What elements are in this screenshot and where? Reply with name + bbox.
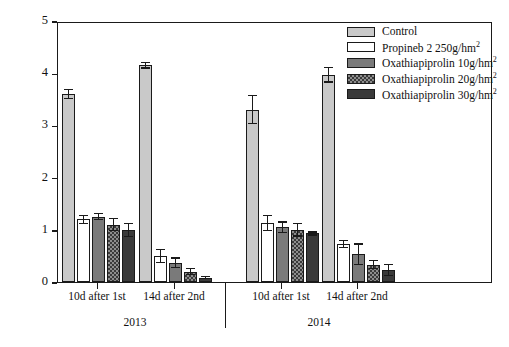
error-bar-cap	[94, 219, 103, 220]
bar-rect	[306, 233, 319, 282]
error-bar-cap	[324, 67, 333, 68]
error-bar-cap	[293, 223, 302, 224]
x-tick-mark	[97, 283, 98, 289]
error-bar-cap	[64, 89, 73, 90]
year-label: 2013	[95, 316, 175, 328]
y-tick-label: 3	[42, 117, 48, 132]
x-axis-label: 14d after 2nd	[307, 290, 407, 302]
error-bar-cap	[94, 213, 103, 214]
bar-group	[246, 23, 319, 282]
x-tick-mark	[357, 283, 358, 289]
error-bar-cap	[171, 257, 180, 258]
error-bar-cap	[64, 98, 73, 99]
error-bar-cap	[263, 230, 272, 231]
error-bar-cap	[384, 275, 393, 276]
legend-swatch	[347, 89, 375, 99]
y-tick-label: 4	[42, 65, 48, 80]
legend-label: Propineb 2 250g/hm2	[382, 41, 480, 54]
bar	[107, 225, 120, 282]
error-bar-cap	[293, 235, 302, 236]
bar-rect	[107, 225, 120, 282]
year-label: 2014	[279, 316, 359, 328]
bar-rect	[246, 110, 259, 282]
bar-rect	[77, 219, 90, 282]
bar	[154, 256, 167, 282]
legend-label: Control	[382, 26, 417, 38]
legend-swatch	[347, 27, 375, 37]
error-bar-cap	[324, 81, 333, 82]
legend-label: Oxathiapiprolin 20g/hm2	[382, 72, 497, 85]
bar	[169, 263, 182, 282]
bar-rect	[337, 244, 350, 282]
error-bar-cap	[109, 218, 118, 219]
error-bar-cap	[354, 264, 363, 265]
bar	[261, 223, 274, 282]
bar	[199, 278, 212, 282]
bar	[92, 217, 105, 282]
bar	[62, 94, 75, 282]
legend-label: Oxathiapiprolin 10g/hm2	[382, 56, 497, 69]
error-bar-cap	[141, 67, 150, 68]
error-bar-stem	[128, 223, 129, 238]
error-bar-cap	[156, 249, 165, 250]
bar-rect	[276, 227, 289, 282]
legend-label-text: Propineb 2 250g/hm	[382, 42, 476, 54]
error-bar-stem	[328, 67, 329, 83]
legend-label-text: Oxathiapiprolin 20g/hm	[382, 73, 493, 85]
legend-item: Control	[347, 24, 497, 40]
bar-rect	[62, 94, 75, 282]
error-bar-stem	[267, 215, 268, 231]
legend: ControlPropineb 2 250g/hm2Oxathiapiproli…	[347, 24, 497, 102]
bar	[352, 254, 365, 282]
legend-swatch	[347, 58, 375, 68]
error-bar-cap	[369, 268, 378, 269]
legend-item: Propineb 2 250g/hm2	[347, 40, 497, 56]
x-axis-label: 14d after 2nd	[124, 290, 224, 302]
error-bar-cap	[201, 278, 210, 279]
bar	[291, 230, 304, 282]
error-bar-cap	[278, 221, 287, 222]
legend-swatch	[347, 42, 375, 52]
y-tick-label: 5	[42, 13, 48, 28]
y-tick-label: 1	[42, 222, 48, 237]
bar	[246, 110, 259, 282]
bar	[322, 75, 335, 282]
error-bar-cap	[109, 230, 118, 231]
error-bar-cap	[186, 268, 195, 269]
bar-rect	[122, 230, 135, 282]
bar	[276, 227, 289, 282]
bar	[382, 270, 395, 282]
y-tick-label: 0	[42, 274, 48, 289]
bar	[139, 65, 152, 282]
error-bar-cap	[248, 123, 257, 124]
error-bar-cap	[171, 267, 180, 268]
disease-severity-bar-chart: Disease severity 012345 10d after 1st14d…	[0, 0, 509, 347]
bar-rect	[139, 65, 152, 282]
error-bar-cap	[141, 62, 150, 63]
bar-group	[62, 23, 135, 282]
legend-label-superscript: 2	[493, 87, 497, 96]
legend-label-text: Oxathiapiprolin 30g/hm	[382, 88, 493, 100]
legend-item: Oxathiapiprolin 20g/hm2	[347, 71, 497, 87]
legend-label-superscript: 2	[493, 71, 497, 80]
error-bar-stem	[358, 243, 359, 265]
error-bar-cap	[248, 95, 257, 96]
error-bar-cap	[186, 274, 195, 275]
legend-swatch	[347, 74, 375, 84]
bar-rect	[92, 217, 105, 282]
x-tick-mark	[174, 283, 175, 289]
legend-label-text: Control	[382, 25, 417, 37]
bar	[337, 244, 350, 282]
year-divider	[225, 283, 226, 328]
legend-item: Oxathiapiprolin 10g/hm2	[347, 55, 497, 71]
legend-label-superscript: 2	[476, 40, 480, 49]
error-bar-cap	[339, 240, 348, 241]
error-bar-cap	[263, 215, 272, 216]
error-bar-cap	[79, 223, 88, 224]
error-bar-cap	[156, 262, 165, 263]
error-bar-cap	[308, 234, 317, 235]
bar-rect	[322, 75, 335, 282]
error-bar-stem	[160, 249, 161, 264]
legend-label: Oxathiapiprolin 30g/hm2	[382, 88, 497, 101]
error-bar-cap	[124, 236, 133, 237]
